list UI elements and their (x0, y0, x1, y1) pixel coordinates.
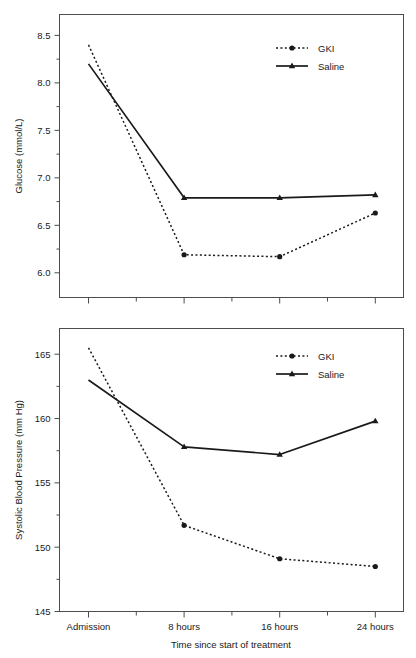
y-tick-label: 150 (35, 542, 51, 553)
series-group-sbp (89, 348, 379, 569)
x-tick-label: 16 hours (261, 621, 298, 632)
x-axis-tick-labels-sbp: Admission8 hours16 hours24 hours (67, 621, 394, 632)
x-axis-ticks-glucose (89, 298, 376, 304)
legend-glucose: GKI Saline (276, 43, 344, 72)
series-line-gki (89, 348, 376, 567)
legend-label-saline: Saline (318, 61, 344, 72)
data-point-gki (373, 210, 378, 215)
legend-label-saline: Saline (318, 369, 344, 380)
glucose-chart-svg: 6.06.57.07.58.08.5 Glucose (mmol/L) GKI … (0, 0, 416, 318)
y-axis-title-sbp: Systolic Blood Pressure (mm Hg) (13, 400, 24, 540)
legend-marker-gki-circle-icon (289, 353, 294, 358)
y-axis-ticks-sbp: 145150155160165 (35, 349, 60, 617)
y-tick-label: 155 (35, 477, 51, 488)
series-line-saline (89, 380, 376, 455)
y-tick-label: 8.0 (37, 77, 50, 88)
chart-panel-glucose: 6.06.57.07.58.08.5 Glucose (mmol/L) GKI … (0, 0, 416, 318)
x-tick-label: Admission (67, 621, 111, 632)
series-line-gki (89, 45, 376, 257)
legend-marker-gki-circle-icon (289, 45, 294, 50)
y-axis-ticks-glucose: 6.06.57.07.58.08.5 (37, 30, 59, 278)
y-tick-label: 6.0 (37, 267, 50, 278)
y-tick-label: 145 (35, 606, 51, 617)
chart-panel-systolic-blood-pressure: 145150155160165 Admission8 hours16 hours… (0, 318, 416, 658)
figure-two-panel-line-charts: 6.06.57.07.58.08.5 Glucose (mmol/L) GKI … (0, 0, 416, 658)
x-tick-label: 24 hours (357, 621, 394, 632)
y-tick-label: 7.0 (37, 172, 50, 183)
y-axis-title-glucose: Glucose (mmol/L) (13, 119, 24, 194)
data-point-gki (182, 523, 187, 528)
y-tick-label: 165 (35, 349, 51, 360)
data-point-gki (182, 252, 187, 257)
legend-label-gki: GKI (318, 43, 334, 54)
sbp-chart-svg: 145150155160165 Admission8 hours16 hours… (0, 318, 416, 658)
legend-label-gki: GKI (318, 351, 334, 362)
x-axis-title-sbp: Time since start of treatment (171, 639, 291, 650)
data-point-gki (277, 556, 282, 561)
series-line-saline (89, 64, 376, 198)
y-tick-label: 7.5 (37, 125, 50, 136)
y-tick-label: 160 (35, 413, 51, 424)
legend-sbp: GKI Saline (276, 351, 344, 380)
data-point-gki (277, 254, 282, 259)
x-tick-label: 8 hours (168, 621, 200, 632)
series-group-glucose (89, 45, 379, 259)
x-axis-ticks-sbp (89, 612, 376, 618)
y-tick-label: 6.5 (37, 220, 50, 231)
plot-frame-sbp (60, 329, 404, 612)
y-tick-label: 8.5 (37, 30, 50, 41)
data-point-saline (372, 418, 378, 424)
data-point-gki (373, 564, 378, 569)
